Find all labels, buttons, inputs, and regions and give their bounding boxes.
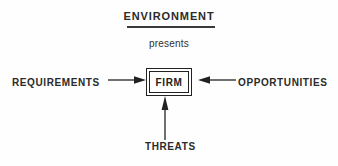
firm-box: FIRM — [146, 68, 192, 96]
arrow-threats-to-firm — [160, 96, 170, 140]
arrow-opportunities-to-firm — [196, 76, 236, 84]
firm-label: FIRM — [150, 72, 188, 92]
firm-box-inner-border: FIRM — [149, 71, 189, 93]
opportunities-label: OPPORTUNITIES — [238, 77, 327, 89]
diagram-title: ENVIRONMENT — [0, 10, 338, 22]
requirements-label: REQUIREMENTS — [12, 77, 100, 89]
diagram-subtitle: presents — [0, 38, 338, 49]
threats-label: THREATS — [145, 141, 196, 153]
title-underline — [127, 26, 215, 28]
diagram-canvas: ENVIRONMENT presents FIRM REQUIREMENTS O… — [0, 0, 338, 166]
arrow-requirements-to-firm — [108, 76, 146, 84]
